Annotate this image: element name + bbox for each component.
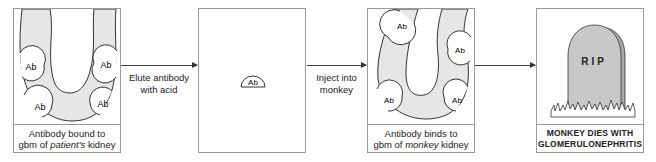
antibody-icon: Ab xyxy=(447,31,471,65)
svg-text:Ab: Ab xyxy=(100,60,111,70)
caption-line: GLOMERULONEPHRITIS xyxy=(538,139,642,150)
panel-patient-kidney: Ab Ab Ab Ab Antibody bound to gbm of pat… xyxy=(13,8,121,153)
eluted-antibody-illustration: Ab xyxy=(199,9,305,152)
svg-text:Ab: Ab xyxy=(97,99,108,109)
antibody-icon: Ab xyxy=(241,76,265,87)
caption-line: Antibody bound to xyxy=(29,128,106,139)
arrow-elute xyxy=(121,65,197,66)
svg-text:RIP: RIP xyxy=(581,56,607,67)
panel-eluted-antibody: Ab xyxy=(198,8,306,153)
arrow-outcome xyxy=(475,65,535,66)
glomerular-loop-illustration: Ab Ab Ab Ab xyxy=(14,9,120,124)
arrow-inject xyxy=(307,65,366,66)
caption-line: MONKEY DIES WITH xyxy=(547,128,634,139)
antibody-icon: Ab xyxy=(24,85,53,117)
antibody-icon: Ab xyxy=(92,45,117,83)
panel-monkey-kidney: Ab Ab Ab Ab Antibody binds to gbm of mon… xyxy=(367,8,475,153)
arrow-label-inject: Inject into monkey xyxy=(307,72,366,96)
svg-text:Ab: Ab xyxy=(34,102,45,112)
panel-caption: Antibody bound to gbm of patient's kidne… xyxy=(14,124,120,153)
svg-text:Ab: Ab xyxy=(455,46,465,55)
tombstone-illustration: RIP xyxy=(537,9,643,124)
antibody-icon: Ab xyxy=(20,46,45,81)
glomerular-loop-illustration: Ab Ab Ab Ab xyxy=(368,9,474,124)
svg-text:Ab: Ab xyxy=(452,96,462,105)
antibody-icon: Ab xyxy=(377,80,403,111)
caption-line: gbm of monkey kidney xyxy=(373,139,468,150)
caption-line: Antibody binds to xyxy=(385,128,458,139)
antibody-icon: Ab xyxy=(90,87,112,115)
panel-monkey-dies: RIP MONKEY DIES WITH GLOMERULONEPHRITIS xyxy=(536,8,644,153)
panel-caption: MONKEY DIES WITH GLOMERULONEPHRITIS xyxy=(537,124,643,153)
tombstone-icon: RIP xyxy=(568,25,625,109)
svg-text:Ab: Ab xyxy=(248,78,258,87)
svg-text:Ab: Ab xyxy=(25,62,36,72)
arrow-label-elute: Elute antibody with acid xyxy=(121,72,197,96)
svg-text:Ab: Ab xyxy=(397,22,407,31)
svg-text:Ab: Ab xyxy=(384,96,394,105)
panel-caption: Antibody binds to gbm of monkey kidney xyxy=(368,124,474,153)
caption-line: gbm of patient's kidney xyxy=(19,139,116,150)
